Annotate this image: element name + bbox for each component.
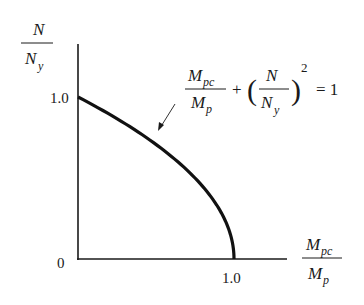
svg-text:N: N [24, 49, 38, 68]
svg-text:M: M [305, 235, 321, 254]
svg-text:M: M [187, 66, 203, 85]
svg-text:p: p [205, 102, 212, 116]
svg-text:y: y [273, 103, 280, 117]
svg-text:2: 2 [301, 60, 308, 75]
interaction-curve [78, 97, 234, 259]
svg-text:(: ( [247, 73, 257, 107]
svg-text:N: N [265, 66, 279, 85]
interaction-diagram: N N y 1.0 0 1.0 M pc M p M pc M p + ( N … [0, 0, 364, 305]
svg-text:pc: pc [202, 75, 215, 89]
svg-text:M: M [307, 264, 323, 283]
svg-text:M: M [190, 93, 206, 112]
x-tick-label: 1.0 [222, 270, 241, 286]
svg-text:+: + [232, 80, 242, 99]
x-axis-label: M pc M p [302, 235, 342, 287]
equation-label: M pc M p + ( N N y ) 2 = 1 [185, 60, 338, 117]
svg-text:N: N [32, 20, 46, 39]
svg-text:pc: pc [320, 244, 333, 258]
svg-text:p: p [322, 273, 329, 287]
svg-text:y: y [37, 59, 44, 73]
y-axis-label: N N y [21, 20, 53, 73]
svg-text:N: N [260, 93, 274, 112]
y-tick-label: 1.0 [50, 90, 69, 106]
svg-text:): ) [291, 73, 301, 107]
svg-text:= 1: = 1 [316, 80, 338, 99]
origin-label: 0 [57, 255, 65, 271]
